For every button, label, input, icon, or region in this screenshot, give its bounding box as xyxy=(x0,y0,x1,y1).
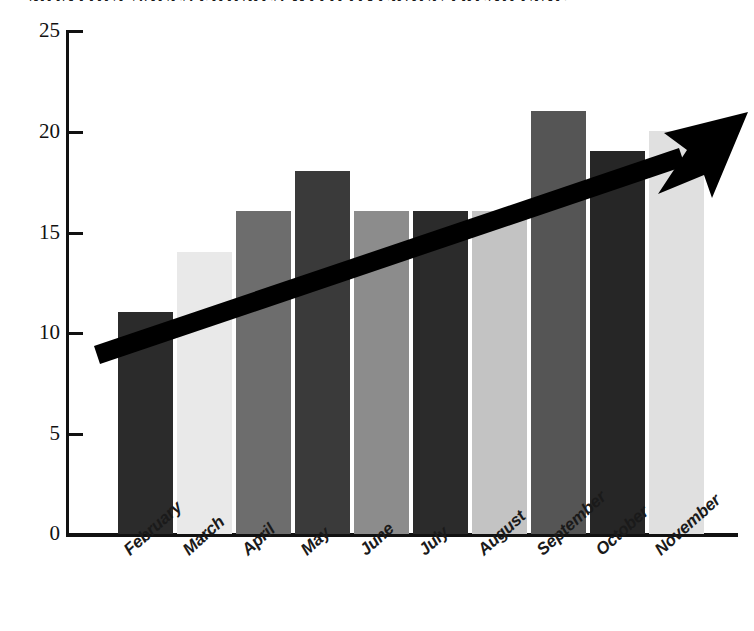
x-label-february: February xyxy=(120,497,186,559)
x-label-july: July xyxy=(415,523,453,560)
x-label-may: May xyxy=(297,523,335,560)
x-label-june: June xyxy=(356,519,398,560)
x-label-april: April xyxy=(238,520,279,560)
plot-area: 25 20 15 10 5 0 FebruaryMarchAprilMayJun… xyxy=(0,0,754,631)
x-label-october: October xyxy=(592,502,653,560)
x-label-august: August xyxy=(474,507,530,560)
x-axis-labels: FebruaryMarchAprilMayJuneJulyAugustSepte… xyxy=(0,0,754,631)
x-label-november: November xyxy=(651,490,725,559)
sales-bar-chart: MONTHLY SALES FIGURES WITH OVERALL TREND… xyxy=(0,0,754,631)
x-label-march: March xyxy=(179,512,229,560)
